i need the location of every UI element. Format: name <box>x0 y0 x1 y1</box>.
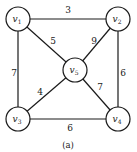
edge-weight-v1-v3: 7 <box>11 68 17 78</box>
node-v3: v3 <box>6 107 30 131</box>
node-v4: v4 <box>106 107 130 131</box>
edge-weight-v5-v4: 7 <box>97 82 103 92</box>
edge-weight-v1-v5: 5 <box>50 36 56 46</box>
graph-diagram: 35976476 v1v2v5v3v4 (a) <box>0 0 137 152</box>
node-v1: v1 <box>6 7 30 31</box>
node-v5: v5 <box>63 58 87 82</box>
node-v2: v2 <box>106 7 130 31</box>
edge-weight-v2-v4: 6 <box>120 68 126 78</box>
edge-weight-v3-v4: 6 <box>67 123 73 133</box>
edge-weight-v1-v2: 3 <box>65 5 71 15</box>
nodes-group: v1v2v5v3v4 <box>6 7 130 131</box>
edge-weight-v2-v5: 9 <box>91 36 97 46</box>
diagram-caption: (a) <box>62 140 74 150</box>
edge-weight-v3-v5: 4 <box>37 87 43 97</box>
